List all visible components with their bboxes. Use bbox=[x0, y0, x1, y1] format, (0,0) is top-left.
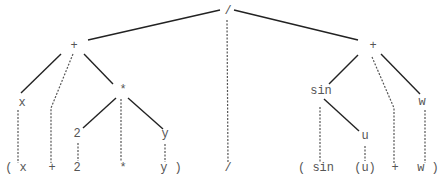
tree-edge-plusR-w bbox=[381, 54, 420, 94]
tree-node-w: w bbox=[418, 95, 426, 109]
tree-edge-plusL-x bbox=[21, 54, 61, 93]
parse-tree-diagram: /++x*2ysinwu( x+2*y )/( sin(u)+w ) bbox=[0, 0, 444, 187]
token-link-tok-plus2 bbox=[372, 57, 394, 164]
token-tok-u: (u) bbox=[354, 161, 376, 175]
token-tok-times: * bbox=[119, 161, 126, 175]
tree-node-root: / bbox=[224, 4, 231, 18]
tree-edge-plusL-times bbox=[84, 54, 113, 84]
tree-edge-times-two bbox=[83, 98, 116, 128]
parse-tree-canvas: /++x*2ysinwu( x+2*y )/( sin(u)+w ) bbox=[0, 0, 444, 187]
tree-node-sin: sin bbox=[310, 84, 332, 98]
token-link-tok-div bbox=[227, 20, 228, 163]
tree-node-two: 2 bbox=[73, 127, 80, 141]
token-tok-w-rparen: w ) bbox=[417, 161, 439, 175]
tree-edge-sin-u bbox=[324, 99, 359, 131]
tree-edge-root-plusR bbox=[234, 10, 358, 40]
token-tok-2: 2 bbox=[73, 161, 80, 175]
token-tok-plus2: + bbox=[391, 161, 398, 175]
token-tok-y-rparen: y ) bbox=[160, 161, 182, 175]
tree-edge-times-y bbox=[128, 98, 163, 129]
token-tok-lparen-sin: ( sin bbox=[298, 161, 334, 175]
token-tok-div: / bbox=[224, 161, 231, 175]
tree-node-u: u bbox=[361, 129, 368, 143]
token-link-tok-plus1 bbox=[51, 54, 73, 163]
tree-edge-plusR-sin bbox=[329, 55, 358, 84]
tree-node-y: y bbox=[161, 127, 168, 141]
tree-node-times: * bbox=[119, 83, 126, 97]
tree-edge-root-plusL bbox=[88, 10, 220, 40]
tree-node-x: x bbox=[18, 96, 25, 110]
token-tok-plus1: + bbox=[48, 161, 55, 175]
tree-node-plusL: + bbox=[70, 39, 77, 53]
tree-node-plusR: + bbox=[369, 39, 376, 53]
token-tok-lparen-x: ( x bbox=[5, 161, 27, 175]
